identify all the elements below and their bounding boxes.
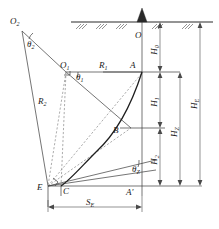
dashed-E-to-A [48, 73, 142, 186]
label-radius-R2: R2 [37, 96, 47, 107]
chord-E-to-thetaZ [48, 160, 156, 186]
label-angle-theta2: θ2 [27, 39, 34, 50]
slip-surface-diagram: O2 θ2 O1 θ1 R1 R2 O A B E C A′ θZ H0 H1 … [0, 0, 219, 229]
label-height-HZ: HZ [169, 126, 180, 138]
label-point-A: A [129, 60, 136, 70]
label-point-B: B [113, 125, 119, 135]
label-point-O1: O1 [60, 60, 70, 71]
dimension-SE [48, 196, 142, 212]
label-angle-theta1: θ1 [76, 72, 83, 83]
label-height-H0: H0 [149, 45, 160, 56]
label-height-H1: H1 [149, 97, 160, 108]
label-point-O: O [135, 30, 142, 40]
label-point-O2: O2 [10, 16, 20, 27]
excavation-marker-triangle [137, 8, 147, 22]
slip-surface-curve [61, 72, 142, 186]
dashed-E-to-B [48, 128, 131, 186]
angle-arc-thetaZ [138, 160, 139, 167]
label-point-C: C [63, 186, 70, 196]
label-height-HE: HE [189, 99, 200, 111]
label-radius-R1: R1 [98, 60, 108, 71]
label-angle-thetaZ: θZ [132, 164, 140, 175]
figure-canvas: O2 θ2 O1 θ1 R1 R2 O A B E C A′ θZ H0 H1 … [0, 0, 219, 229]
ground-hatching [76, 24, 193, 29]
label-span-SE: SE [86, 197, 95, 208]
label-height-H2: H2 [149, 155, 160, 166]
label-point-E: E [36, 182, 43, 192]
line-O2-to-E [22, 31, 48, 186]
label-point-A-prime: A′ [125, 187, 134, 197]
